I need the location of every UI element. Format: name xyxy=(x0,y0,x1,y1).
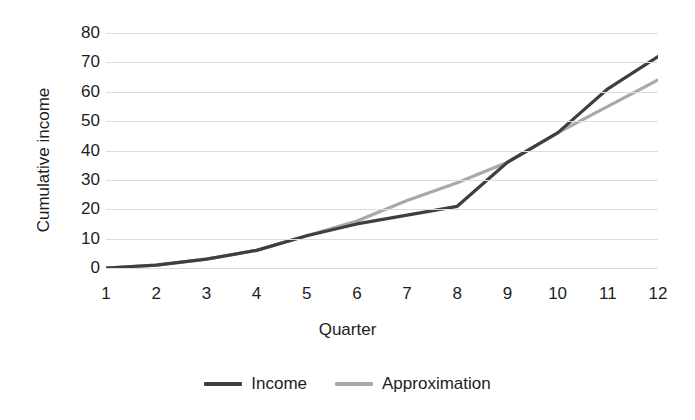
x-axis-tick-label: 5 xyxy=(287,285,327,302)
x-axis-tick-label: 2 xyxy=(136,285,176,302)
legend-swatch-icon xyxy=(335,382,373,386)
x-axis-tick-label: 12 xyxy=(638,285,678,302)
x-axis-tick-label: 1 xyxy=(86,285,126,302)
legend-item-approximation[interactable]: Approximation xyxy=(335,375,491,392)
x-axis-tick-label: 3 xyxy=(186,285,226,302)
legend-label: Income xyxy=(251,375,307,392)
y-axis-tick-label: 0 xyxy=(54,259,100,276)
plot-area xyxy=(106,33,658,268)
x-axis-tick-label: 9 xyxy=(487,285,527,302)
x-axis-tick-label: 10 xyxy=(538,285,578,302)
x-axis-tick-label: 6 xyxy=(337,285,377,302)
y-axis-tick-label: 80 xyxy=(54,24,100,41)
y-axis-tick-label: 30 xyxy=(54,171,100,188)
gridline xyxy=(106,33,658,34)
chart-legend: IncomeApproximation xyxy=(0,375,695,392)
gridline xyxy=(106,268,658,269)
gridline xyxy=(106,92,658,93)
y-axis-title: Cumulative income xyxy=(34,30,54,290)
x-axis-title: Quarter xyxy=(0,320,695,340)
gridline xyxy=(106,180,658,181)
legend-swatch-icon xyxy=(204,382,242,386)
y-axis-tick-label: 40 xyxy=(54,142,100,159)
y-axis-tick-labels: 01020304050607080 xyxy=(52,33,100,268)
y-axis-tick-label: 10 xyxy=(54,230,100,247)
y-axis-tick-label: 20 xyxy=(54,200,100,217)
y-axis-tick-label: 70 xyxy=(54,53,100,70)
x-axis-tick-label: 4 xyxy=(237,285,277,302)
legend-item-income[interactable]: Income xyxy=(204,375,307,392)
gridline xyxy=(106,209,658,210)
x-axis-tick-label: 11 xyxy=(588,285,628,302)
line-chart: Cumulative income 01020304050607080 1234… xyxy=(0,0,695,420)
series-line-approximation xyxy=(106,80,658,268)
gridline xyxy=(106,121,658,122)
series-line-income xyxy=(106,57,658,269)
gridline xyxy=(106,62,658,63)
y-axis-tick-label: 60 xyxy=(54,83,100,100)
x-axis-tick-label: 8 xyxy=(437,285,477,302)
y-axis-tick-label: 50 xyxy=(54,112,100,129)
gridline xyxy=(106,239,658,240)
x-axis-tick-labels: 123456789101112 xyxy=(106,285,658,309)
x-axis-tick-label: 7 xyxy=(387,285,427,302)
gridline xyxy=(106,151,658,152)
legend-label: Approximation xyxy=(382,375,491,392)
